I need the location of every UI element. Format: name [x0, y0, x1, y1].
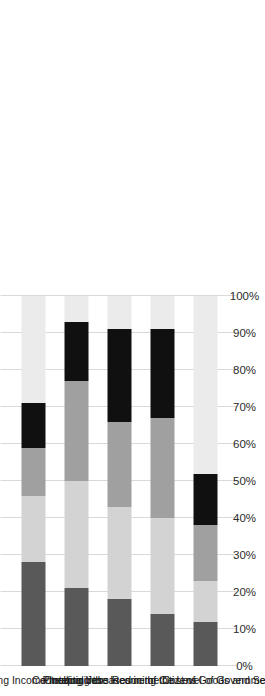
bar-segment — [193, 525, 217, 581]
bar-segment — [193, 581, 217, 622]
bar-segment — [21, 562, 45, 666]
bar-segment — [64, 481, 88, 588]
bar-group — [21, 296, 45, 666]
axis-tick-label: 10% — [232, 623, 255, 635]
axis-tick-label: 90% — [232, 327, 255, 339]
chart-figure: Reducing Income InequalitiesCreating Job… — [0, 0, 265, 696]
bar-group — [107, 296, 131, 666]
bar-segment — [150, 418, 174, 518]
bar-segment — [64, 296, 88, 322]
axis-tick-label: 50% — [232, 475, 255, 487]
bar-segment — [150, 614, 174, 666]
axis-tick-label: 40% — [232, 512, 255, 524]
axis-tick-label: 70% — [232, 401, 255, 413]
bar-segment — [107, 296, 131, 329]
bar-segment — [64, 322, 88, 381]
bar-group — [150, 296, 174, 666]
bar-segment — [193, 296, 217, 474]
axis-tick-label: 100% — [229, 290, 258, 302]
axis-tick-label: 20% — [232, 586, 255, 598]
bar-segment — [150, 518, 174, 614]
chart-root: Reducing Income InequalitiesCreating Job… — [0, 0, 265, 696]
bar-segment — [21, 296, 45, 403]
category-label: Reducing the Level of Government Debt — [111, 674, 265, 686]
bar-segment — [21, 448, 45, 496]
bar-segment — [193, 474, 217, 526]
bar-segment — [21, 403, 45, 447]
bar-segment — [64, 588, 88, 666]
axis-tick-label: 0% — [236, 660, 253, 672]
axis-tick-label: 30% — [232, 549, 255, 561]
plot-area: Reducing Income InequalitiesCreating Job… — [0, 0, 265, 696]
bar-segment — [150, 329, 174, 418]
bar-segment — [64, 381, 88, 481]
axis-tick-label: 80% — [232, 364, 255, 376]
bar-segment — [107, 329, 131, 422]
bar-segment — [107, 422, 131, 507]
bar-segment — [150, 296, 174, 329]
axis-tick-label: 60% — [232, 438, 255, 450]
bar-segment — [193, 622, 217, 666]
bar-segment — [107, 507, 131, 600]
bar-segment — [107, 599, 131, 666]
bar-segment — [21, 496, 45, 563]
bar-group — [193, 296, 217, 666]
bar-group — [64, 296, 88, 666]
